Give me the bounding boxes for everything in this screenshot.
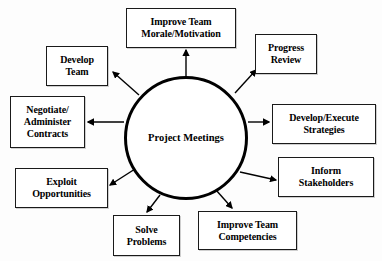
node-label: Improve Team Competencies [215,219,280,243]
node-inform-stakeholders[interactable]: Inform Stakeholders [278,157,374,197]
node-label: Progress Review [266,42,306,66]
node-label-line1: Improve Team [215,219,280,231]
node-label-line2: Opportunities [30,188,93,200]
node-label-line2: Strategies [287,124,361,136]
node-label: Develop/Execute Strategies [287,112,361,136]
node-label-line1: Solve [125,224,169,236]
node-label-line1: Improve Team [139,16,222,28]
project-meetings-diagram: Project Meetings Improve Team Morale/Mot… [0,0,382,261]
arrow-to-improve-team-competencies [216,190,232,208]
node-label-line2: Administer [22,116,73,128]
node-label-line1: Develop/Execute [287,112,361,124]
node-label-line2: Team [58,66,96,78]
arrow-to-solve-problems [147,195,160,212]
node-label-line1: Exploit [30,176,93,188]
node-solve-problems[interactable]: Solve Problems [113,215,180,256]
node-label-line2: Review [266,54,306,66]
node-label-line1: Negotiate/ [22,104,73,116]
node-label: Solve Problems [125,224,169,248]
node-label-line2: Problems [125,236,169,248]
node-develop-team[interactable]: Develop Team [46,46,108,86]
hub-project-meetings[interactable]: Project Meetings [124,76,248,200]
node-label: Negotiate/ Administer Contracts [22,104,73,140]
arrow-to-inform-stakeholders [240,172,276,180]
arrow-to-progress-review [235,70,256,93]
node-label-line1: Inform [297,165,355,177]
node-label-line2: Morale/Motivation [139,28,222,40]
node-label-line1: Develop [58,54,96,66]
node-label: Improve Team Morale/Motivation [139,16,222,40]
hub-label-line2: Meetings [183,132,224,143]
node-negotiate-administer-contracts[interactable]: Negotiate/ Administer Contracts [10,96,85,148]
arrow-to-exploit-opportunities [110,169,135,185]
node-exploit-opportunities[interactable]: Exploit Opportunities [15,168,108,208]
hub-label-line1: Project [148,132,180,143]
node-label-line2: Stakeholders [297,177,355,189]
node-label-line2: Competencies [215,231,280,243]
hub-label: Project Meetings [148,131,224,145]
node-develop-execute-strategies[interactable]: Develop/Execute Strategies [272,104,376,144]
node-improve-team-morale-motivation[interactable]: Improve Team Morale/Motivation [126,8,236,48]
node-label: Inform Stakeholders [297,165,355,189]
node-label-line1: Progress [266,42,306,54]
node-improve-team-competencies[interactable]: Improve Team Competencies [198,211,297,250]
node-label: Develop Team [58,54,96,78]
node-label-line3: Contracts [22,128,73,140]
node-progress-review[interactable]: Progress Review [255,34,317,74]
node-label: Exploit Opportunities [30,176,93,200]
arrow-to-develop-team [113,72,139,95]
